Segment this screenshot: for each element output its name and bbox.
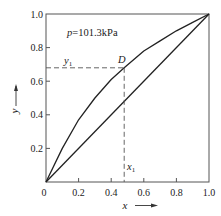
y-tick-1.0: 1.0 [31, 9, 44, 20]
y-tick-0.6: 0.6 [31, 76, 44, 87]
diagonal-line [46, 14, 209, 182]
y-tick-0.4: 0.4 [31, 109, 44, 120]
y-axis-label: y [8, 108, 20, 114]
y1-label: y1 [63, 55, 73, 68]
x-tick-0.4: 0.4 [105, 187, 118, 198]
y-axis-ticks [46, 48, 50, 149]
x-tick-0.6: 0.6 [138, 187, 151, 198]
xy-equilibrium-chart: 0 0.2 0.4 0.6 0.8 1.0 0.2 0.4 0.6 0.8 1.… [0, 0, 221, 216]
x-tick-0: 0 [42, 187, 47, 198]
y-tick-0.2: 0.2 [31, 143, 44, 154]
x-axis-arrow-icon [135, 204, 158, 208]
x-tick-1.0: 1.0 [203, 187, 216, 198]
x1-label: x1 [126, 161, 136, 174]
y-tick-0.8: 0.8 [31, 42, 44, 53]
x-axis-label: x [122, 199, 128, 211]
pressure-label: p=101.3kPa [66, 27, 118, 38]
x-axis-ticks [79, 178, 177, 182]
y-axis-arrow-icon [14, 84, 18, 106]
x-tick-0.2: 0.2 [72, 187, 85, 198]
point-d-label: D [117, 54, 126, 65]
x-tick-0.8: 0.8 [170, 187, 183, 198]
